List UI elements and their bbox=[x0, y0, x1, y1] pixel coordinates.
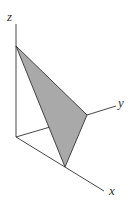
z-axis-label: z bbox=[6, 9, 12, 24]
y-axis bbox=[87, 106, 116, 115]
y-axis-label: y bbox=[116, 95, 124, 110]
y-axis-hidden-segment bbox=[16, 127, 50, 137]
coordinate-diagram: z y x bbox=[0, 0, 134, 200]
x-axis-label: x bbox=[108, 183, 115, 198]
plane-triangle bbox=[16, 46, 87, 167]
